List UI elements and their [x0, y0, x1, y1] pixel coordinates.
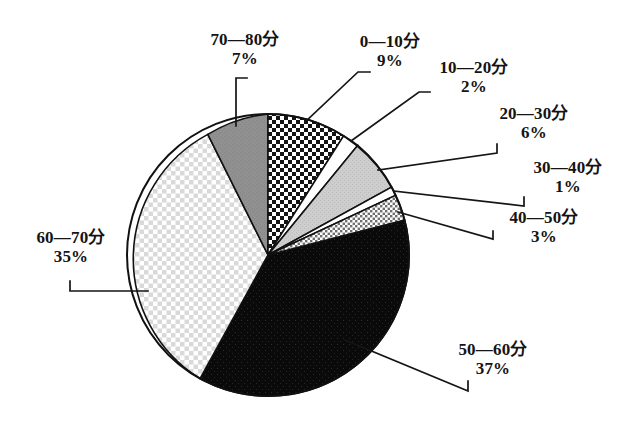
pie-label-70-80-category: 70—80分: [190, 30, 300, 49]
pie-slices: [127, 114, 409, 396]
pie-label-60-70-category: 60—70分: [12, 228, 130, 247]
pie-label-50-60: 50—60分 37%: [437, 340, 549, 378]
pie-label-30-40: 30—40分 1%: [512, 158, 624, 196]
pie-label-20-30-percent: 6%: [478, 123, 590, 142]
pie-chart-figure: 70—80分 7% 0—10分 9% 10—20分 2% 20—30分 6% 3…: [0, 0, 638, 443]
pie-label-10-20: 10—20分 2%: [418, 58, 530, 96]
pie-label-40-50-category: 40—50分: [488, 208, 600, 227]
leader-line-10-20: [351, 92, 430, 141]
pie-label-60-70-percent: 35%: [12, 247, 130, 266]
pie-label-10-20-percent: 2%: [418, 77, 530, 96]
pie-label-70-80: 70—80分 7%: [190, 30, 300, 68]
leader-line-0-10: [305, 72, 370, 122]
pie-label-10-20-category: 10—20分: [418, 58, 530, 77]
pie-label-70-80-percent: 7%: [190, 49, 300, 68]
leader-line-40-50: [398, 212, 493, 239]
pie-label-20-30-category: 20—30分: [478, 104, 590, 123]
pie-label-20-30: 20—30分 6%: [478, 104, 590, 142]
pie-label-0-10-category: 0—10分: [340, 32, 440, 51]
pie-label-40-50-percent: 3%: [488, 227, 600, 246]
pie-label-50-60-percent: 37%: [437, 359, 549, 378]
leader-line-20-30: [378, 144, 497, 170]
pie-label-30-40-category: 30—40分: [512, 158, 624, 177]
pie-label-50-60-category: 50—60分: [437, 340, 549, 359]
pie-label-40-50: 40—50分 3%: [488, 208, 600, 246]
leader-line-30-40: [394, 191, 524, 206]
pie-label-30-40-percent: 1%: [512, 177, 624, 196]
pie-label-60-70: 60—70分 35%: [12, 228, 130, 266]
